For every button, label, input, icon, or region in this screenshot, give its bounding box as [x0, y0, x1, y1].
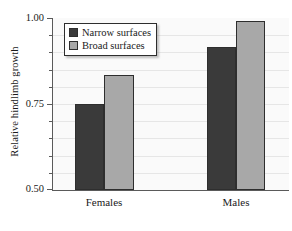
y-tick-label-bottom: 0.50	[4, 184, 44, 195]
legend-label-broad: Broad surfaces	[82, 40, 145, 51]
y-tick-minor-0-90	[49, 52, 53, 53]
bar-males-broad	[236, 21, 265, 190]
plot-area: Narrow surfaces Broad surfaces	[52, 18, 289, 191]
y-tick-minor-0-95	[49, 35, 53, 36]
bar-males-narrow	[207, 47, 236, 190]
y-tick-minor-0-85	[49, 70, 53, 71]
legend: Narrow surfaces Broad surfaces	[64, 23, 157, 56]
bar-chart: Relative hindlimb growth	[0, 0, 292, 231]
y-tick-0-50	[47, 189, 53, 190]
legend-label-narrow: Narrow surfaces	[82, 27, 151, 38]
x-label-females: Females	[64, 196, 144, 208]
bar-females-broad	[104, 75, 134, 190]
y-tick-minor-0-60	[49, 156, 53, 157]
y-tick-minor-0-70	[49, 121, 53, 122]
y-tick-minor-0-55	[49, 173, 53, 174]
y-tick-label-mid: 0.75	[4, 99, 44, 110]
legend-entry-broad: Broad surfaces	[69, 39, 151, 52]
y-tick-minor-0-80	[49, 87, 53, 88]
bar-females-narrow	[75, 104, 104, 190]
x-label-males: Males	[196, 196, 276, 208]
legend-entry-narrow: Narrow surfaces	[69, 26, 151, 39]
y-tick-minor-0-65	[49, 138, 53, 139]
legend-swatch-broad-icon	[69, 41, 78, 50]
legend-swatch-narrow-icon	[69, 28, 78, 37]
y-tick-0-75	[47, 104, 53, 105]
y-tick-1-00	[47, 18, 53, 19]
y-tick-label-top: 1.00	[4, 13, 44, 24]
